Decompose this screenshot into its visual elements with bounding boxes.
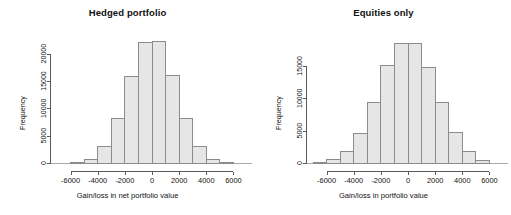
svg-text:6000: 6000	[225, 176, 241, 185]
svg-text:4000: 4000	[198, 176, 214, 185]
plot-svg-left: 05000100001500020000-6000-4000-200002000…	[0, 0, 255, 215]
svg-text:10000: 10000	[296, 88, 303, 108]
svg-text:6000: 6000	[481, 176, 497, 185]
x-axis-label-left: Gain/loss in net portfolio value	[0, 191, 255, 200]
svg-text:20000: 20000	[40, 44, 47, 64]
y-axis-label-right: Frequency	[274, 96, 283, 130]
svg-text:-6000: -6000	[317, 176, 336, 185]
svg-text:4000: 4000	[454, 176, 470, 185]
panel-hedged-portfolio: Hedged portfolio 05000100001500020000-60…	[0, 0, 255, 215]
svg-text:15000: 15000	[296, 56, 303, 76]
svg-text:-4000: -4000	[344, 176, 363, 185]
svg-text:5000: 5000	[40, 128, 47, 144]
histogram-figure: Hedged portfolio 05000100001500020000-60…	[0, 0, 511, 215]
panel-equities-only: Equities only 050001000015000-6000-4000-…	[256, 0, 511, 215]
svg-text:-2000: -2000	[371, 176, 390, 185]
plot-svg-right: 050001000015000-6000-4000-20000200040006…	[256, 0, 511, 215]
svg-text:0: 0	[150, 176, 154, 185]
plot-area-right: 050001000015000-6000-4000-20000200040006…	[256, 0, 511, 215]
svg-text:0: 0	[406, 176, 410, 185]
svg-text:5000: 5000	[296, 123, 303, 139]
svg-text:-2000: -2000	[115, 176, 134, 185]
y-axis-label-left: Frequency	[18, 96, 27, 130]
plot-area-left: 05000100001500020000-6000-4000-200002000…	[0, 0, 255, 215]
svg-text:2000: 2000	[171, 176, 187, 185]
svg-text:-6000: -6000	[61, 176, 80, 185]
svg-text:0: 0	[296, 161, 303, 165]
svg-text:0: 0	[40, 161, 47, 165]
svg-text:2000: 2000	[427, 176, 443, 185]
svg-text:15000: 15000	[40, 71, 47, 91]
svg-text:-4000: -4000	[88, 176, 107, 185]
x-axis-label-right: Gain/loss in portfolio value	[256, 191, 511, 200]
svg-text:10000: 10000	[40, 98, 47, 118]
